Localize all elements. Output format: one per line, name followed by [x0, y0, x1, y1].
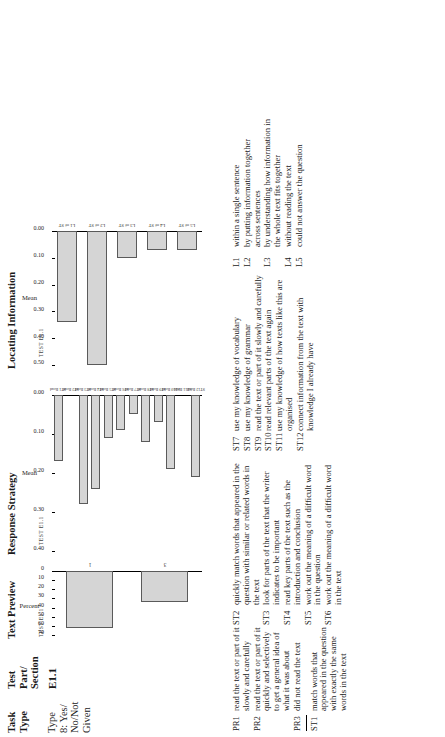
chart-tick-mark — [52, 258, 55, 259]
legend-pre-read-text: did not read the text — [293, 642, 303, 711]
legend-strategy-right: ST7use my knowledge of vocabularyST8use … — [232, 273, 316, 451]
chart-response-strategy: TEST E1.1 0.000.100.200.300.40MeanST1 Re… — [36, 369, 216, 555]
chart-bar — [129, 395, 138, 415]
chart-tick-label: 0.20 — [34, 279, 45, 285]
legend-pre-read-text: read the text or part of it slowly and c… — [232, 627, 252, 711]
legend-strategy-text: look for parts of the text that the writ… — [262, 457, 282, 605]
chart-tick-mark — [52, 608, 55, 609]
chart-tick-label: 0.00 — [34, 389, 45, 395]
chart-tick-mark — [52, 512, 55, 513]
legend-strategy-key: ST8 — [243, 431, 253, 451]
chart-bar — [177, 231, 197, 250]
legend-strategy-item: ST10read relevant parts of the text agai… — [264, 273, 274, 451]
legend-strategy-text: use my knowledge of grammar — [243, 324, 253, 431]
legend-pre-read: PR1read the text or part of it slowly an… — [232, 627, 350, 731]
legend-strategy-key: ST5 — [304, 605, 324, 625]
chart-bar — [147, 231, 167, 250]
legend-strategy-text: match words that appeared in the questio… — [310, 627, 349, 711]
chart-tick-label: 50 — [38, 611, 44, 617]
legend-strategy-item: ST9read the text or part of it slowly an… — [254, 273, 264, 451]
chart-tick-label: 70 — [38, 629, 44, 635]
legend-locating-item: L3by understanding how information in th… — [263, 117, 283, 267]
chart-bar — [66, 571, 113, 628]
chart-bar — [166, 395, 175, 469]
figure-canvas: Task Type Test Part/ Section Text Previe… — [0, 0, 445, 737]
legend-locating-key: L1 — [232, 247, 242, 267]
chart-category-label: L5 of ST — [179, 223, 196, 228]
chart-title-response-strategy: TEST E1.1 — [38, 516, 44, 545]
header-task-type: Task Type — [6, 689, 29, 733]
chart-tick-label: 20 — [38, 583, 44, 589]
legend-strategy-key: ST12 — [296, 431, 316, 451]
legend-strategy-key: ST2 — [232, 605, 261, 625]
legend-locating-key: L5 — [295, 247, 305, 267]
chart-bar — [54, 395, 63, 461]
chart-bar — [87, 231, 107, 365]
header-test-part-section: Test Part/ Section — [6, 639, 41, 689]
legend-strategy-key: ST6 — [324, 605, 344, 625]
legend-locating-text: by understanding how information in the … — [263, 117, 283, 247]
legend-strategy-key: ST1 — [310, 711, 349, 731]
legend-divider — [306, 715, 307, 731]
chart-value-axis-label: Percent — [20, 601, 40, 608]
legend-locating-item: L1within a single sentence — [232, 117, 242, 267]
chart-tick-label: 0.00 — [34, 225, 45, 231]
legend-locating-text: could not answer the question — [295, 144, 305, 247]
legend-strategy-text: use my knowledge of how texts like this … — [275, 273, 295, 431]
legend-locating-key: L3 — [263, 247, 283, 267]
legend-pre-read-item: PR2read the text or part of it quickly a… — [253, 627, 292, 731]
chart-tick-mark — [52, 626, 55, 627]
legend-strategy-item: ST4read key parts of the text such as th… — [283, 457, 303, 625]
legend-strategy-text: read key parts of the text such as the i… — [283, 457, 303, 605]
chart-tick-label: 0.10 — [34, 252, 45, 258]
chart-tick-mark — [52, 580, 55, 581]
legend-strategy-text: read relevant parts of the text again — [264, 310, 274, 431]
legend-strategy-item: ST12connect information from the text wi… — [296, 273, 316, 451]
legend-strategy-key: ST11 — [275, 431, 295, 451]
chart-bar — [57, 231, 77, 322]
chart-text-preview: TEST E1.1 010203040506070Percent13 — [36, 555, 216, 639]
charts-container: TEST E1.1 010203040506070Percent13 TEST … — [36, 209, 216, 639]
legend-strategy-text: work out the meaning of a difficult word… — [324, 457, 344, 605]
chart-tick-mark — [52, 338, 55, 339]
chart-bar — [141, 571, 188, 602]
legend-strategy-item: ST6work out the meaning of a difficult w… — [324, 457, 344, 625]
legend-locating-key: L2 — [243, 247, 263, 267]
header-locating-information: Locating Information — [6, 209, 18, 369]
chart-tick-mark — [52, 231, 55, 232]
header-text-preview: Text Preview — [6, 555, 18, 639]
chart-category-label: L4 of ST — [149, 223, 166, 228]
chart-category-label: L1 of ST — [59, 223, 76, 228]
chart-category-label: 1 — [88, 562, 91, 568]
legend-strategy-key: ST9 — [254, 431, 264, 451]
legend-strategy-text: read the text or part of it slowly and c… — [254, 275, 264, 431]
legend-strategy-text: use my knowledge of vocabulary — [232, 317, 242, 431]
chart-tick-label: 30 — [38, 592, 44, 598]
chart-tick-mark — [52, 598, 55, 599]
legend-pre-read-key: PR2 — [253, 711, 292, 731]
legend-locating-item: L2by putting information together across… — [243, 117, 263, 267]
chart-locating-information: TEST E1.1 0.000.100.200.300.400.50MeanL1… — [36, 209, 216, 369]
chart-bar — [191, 395, 200, 477]
legend-pre-read-item: PR1read the text or part of it slowly an… — [232, 627, 252, 731]
chart-value-axis-label: Mean — [22, 469, 37, 476]
chart-tick-mark — [52, 635, 55, 636]
chart-tick-mark — [52, 589, 55, 590]
chart-bar — [104, 395, 113, 438]
legend-strategy-item: ST8use my knowledge of grammar — [243, 273, 253, 451]
chart-tick-label: 0.40 — [34, 545, 45, 551]
legend-strategy-key: ST4 — [283, 605, 303, 625]
header-response-strategy: Response Strategy — [6, 369, 18, 555]
legend-pre-read-key: PR3 — [293, 711, 303, 731]
legend-strategy-item: ST3look for parts of the text that the w… — [262, 457, 282, 625]
rotated-page-wrapper: Task Type Test Part/ Section Text Previe… — [0, 0, 445, 737]
chart-bar — [79, 395, 88, 504]
chart-category-label: ST12 Read — [187, 387, 205, 392]
legend-locating-item: L4without reading the text — [284, 117, 294, 267]
legend-pre-read-text: read the text or part of it quickly and … — [253, 627, 292, 711]
table-body-row: Type 8: Yes/ No/Not Given E1.1 — [46, 639, 92, 733]
legend-strategy-text: quickly match words that appeared in the… — [232, 457, 261, 605]
chart-tick-mark — [52, 551, 55, 552]
legend-strategy-left: ST2quickly match words that appeared in … — [232, 457, 345, 625]
chart-tick-label: 0.10 — [34, 428, 45, 434]
